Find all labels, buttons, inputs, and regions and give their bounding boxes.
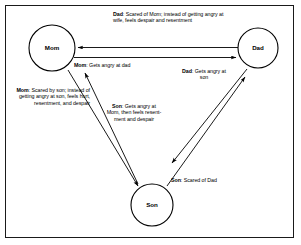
node-son[interactable]: Son: [131, 184, 173, 226]
edge-label-text: : Scared of Dad: [181, 177, 217, 183]
edge-son-to-mom-arrow: [85, 73, 138, 184]
edge-label-actor: Mom: [74, 62, 86, 68]
edge-label-actor: Dad: [113, 11, 123, 17]
edge-label-son-gets-angry-at-mom: Son: Gets angry at Mom, then feels resen…: [105, 103, 163, 122]
diagram-canvas: Mom Dad Son: [0, 0, 301, 245]
edge-label-actor: Dad: [182, 68, 192, 74]
edge-label-mom-gets-angry-at-dad: Mom: Gets angry at dad: [74, 62, 184, 68]
edge-son-to-dad-arrow: [167, 77, 245, 186]
node-son-label: Son: [146, 201, 158, 208]
edge-label-son-scared-of-dad: Son: Scared of Dad: [171, 177, 261, 183]
edge-label-actor: Mom: [16, 87, 28, 93]
edge-label-dad-gets-angry-at-son: Dad: Gets angry at son: [180, 68, 228, 81]
node-dad-label: Dad: [252, 44, 264, 51]
edge-dad-to-son-arrow: [172, 69, 247, 163]
edge-label-text: : Gets angry at dad: [86, 62, 130, 68]
edge-label-mom-scared-by-son: Mom: Scared by son; instead of getting a…: [12, 87, 90, 106]
edge-label-text: : Scared by son; instead of getting angr…: [19, 87, 90, 106]
edge-label-text: : Gets angry at son: [192, 68, 226, 80]
diagram-page: Mom Dad Son Dad: Scared of Mom; instead …: [0, 0, 301, 245]
node-mom-label: Mom: [45, 44, 60, 51]
node-dad[interactable]: Dad: [238, 28, 278, 68]
edge-label-text: : Scared of Mom; instead of getting angr…: [113, 11, 223, 23]
edge-label-actor: Son: [112, 103, 122, 109]
node-mom[interactable]: Mom: [29, 25, 75, 71]
edge-label-dad-scared-of-mom: Dad: Scared of Mom; instead of getting a…: [113, 11, 233, 24]
edge-label-actor: Son: [171, 177, 181, 183]
